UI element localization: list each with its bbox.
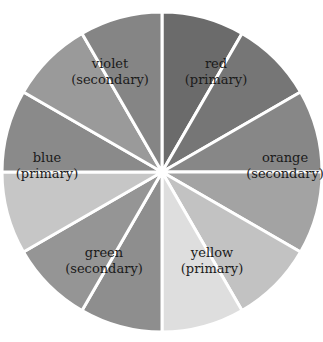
- label-blue-name: blue: [33, 150, 62, 165]
- label-violet-name: violet: [91, 56, 129, 71]
- color-wheel: violet (secondary) red (primary) orange …: [0, 0, 323, 342]
- label-violet-role: (secondary): [71, 72, 149, 87]
- label-green-role: (secondary): [65, 261, 143, 276]
- label-blue-role: (primary): [16, 166, 78, 181]
- label-green-name: green: [85, 245, 124, 260]
- label-orange-role: (secondary): [246, 166, 323, 181]
- label-yellow-role: (primary): [181, 261, 243, 276]
- label-orange-name: orange: [262, 150, 308, 165]
- label-yellow-name: yellow: [190, 245, 233, 260]
- label-red-name: red: [205, 56, 227, 71]
- label-red-role: (primary): [185, 72, 247, 87]
